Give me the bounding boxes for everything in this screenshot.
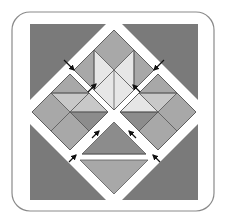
quilt-diagram-canvas xyxy=(0,0,228,223)
quilt-diagram xyxy=(0,0,228,223)
